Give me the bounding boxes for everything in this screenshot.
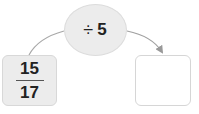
fraction-numerator: 15	[20, 59, 39, 78]
operation-operand: 5	[97, 20, 107, 40]
input-fraction-box: 15 17	[2, 55, 57, 106]
fraction-bar	[16, 80, 44, 82]
incoming-curve	[29, 31, 64, 55]
fraction: 15 17	[16, 59, 44, 103]
answer-box[interactable]	[135, 55, 191, 106]
divide-icon: ÷	[83, 20, 94, 41]
outgoing-curve	[127, 31, 162, 52]
fraction-denominator: 17	[20, 83, 39, 102]
operation-bubble: ÷ 5	[64, 4, 127, 56]
